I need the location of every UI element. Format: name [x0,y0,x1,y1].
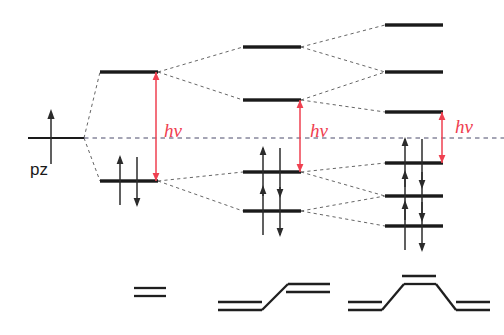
correlation-line-10 [301,163,385,172]
correlation-line-8 [301,72,385,100]
correlation-line-1 [84,138,100,181]
pz-atomic-orbital [28,109,84,164]
molecule-skeletons [134,276,490,310]
level-bar-butadiene-psi3 [243,98,301,101]
electron-up-head-hexatriene-psi2 [402,170,409,179]
correlation-lines [84,25,385,226]
electron-up-head-ethene-pi [117,155,124,164]
level-bar-butadiene-psi2 [243,170,301,173]
correlation-line-11 [301,172,385,196]
correlation-line-12 [301,196,385,211]
molecule-hexatriene-bond-2 [382,284,404,310]
electron-up-head-butadiene-psi2 [260,146,267,155]
level-bar-hexatriene-psi6 [385,23,443,26]
level-bar-ethene-pi-star [100,70,158,73]
level-bar-hexatriene-psi2 [385,194,443,197]
correlation-line-7 [301,47,385,72]
energy-levels [100,23,443,227]
level-bar-hexatriene-psi1 [385,224,443,227]
electron-up-head-butadiene-psi1 [260,185,267,194]
correlation-line-3 [158,72,243,100]
mo-energy-diagram: pzhνhνhν [0,0,504,335]
level-bar-butadiene-psi4 [243,45,301,48]
level-bar-hexatriene-psi3 [385,161,443,164]
hv-hexatriene-label: hν [455,116,474,137]
molecule-butadiene-bond-2 [262,284,288,310]
electron-spin-arrows [117,137,426,252]
level-bar-hexatriene-psi5 [385,70,443,73]
level-bar-ethene-pi [100,179,158,182]
molecule-ethene [134,288,166,296]
hv-butadiene-label: hν [310,120,329,141]
diagram-text-labels: pzhνhνhν [30,116,474,179]
electron-down-head-hexatriene-psi1 [419,243,426,252]
molecule-hexatriene [348,276,490,310]
correlation-line-2 [158,47,243,72]
level-bar-hexatriene-psi4 [385,110,443,113]
electron-up-head-hexatriene-psi1 [402,200,409,209]
molecule-hexatriene-bond-5 [436,284,456,310]
hv-ethene-label: hν [164,120,183,141]
correlation-line-5 [158,181,243,211]
correlation-line-9 [301,100,385,112]
pz-orbital-label: pz [30,160,48,179]
level-bar-butadiene-psi1 [243,209,301,212]
molecule-butadiene [218,284,330,310]
correlation-line-0 [84,72,100,138]
electron-down-head-ethene-pi [134,198,141,207]
pz-electron-arrow-head [47,109,54,119]
correlation-line-13 [301,211,385,226]
diagram-canvas: pzhνhνhν [0,0,504,335]
correlation-line-6 [301,25,385,47]
electron-down-head-butadiene-psi1 [277,228,284,237]
correlation-line-4 [158,172,243,181]
